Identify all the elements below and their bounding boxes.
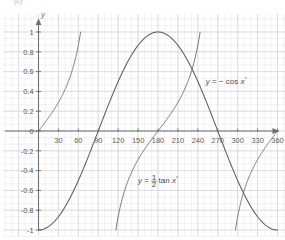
y-tick-label: -0.2: [21, 147, 34, 156]
annotation-neg-cos: y = − cos x°: [205, 76, 247, 86]
y-tick-label: 0.8: [23, 48, 33, 57]
x-tick-label: 300: [231, 136, 243, 145]
x-tick-label: 30: [54, 136, 62, 145]
curve-half-tan-branch-1: [39, 32, 81, 131]
y-tick-label: -0.6: [21, 186, 34, 195]
y-tick-label: -0.8: [21, 206, 34, 215]
y-axis-arrow: [36, 19, 42, 26]
y-tick-label: -0.4: [21, 166, 34, 175]
x-tick-label: 240: [192, 136, 204, 145]
x-tick-label: 60: [74, 136, 82, 145]
svg-text:y =: y =: [137, 176, 149, 185]
x-tick-label: 120: [112, 136, 124, 145]
graph-plot: y30609012015018021024027030033036010.80.…: [0, 0, 285, 240]
x-tick-label: 210: [172, 136, 184, 145]
grid-minor: [3, 14, 285, 237]
figure-container: (c) y30609012015018021024027030033036010…: [0, 0, 285, 240]
y-tick-label: 0.2: [23, 107, 33, 116]
svg-text:2: 2: [152, 180, 157, 189]
y-tick-label: -1: [27, 226, 34, 235]
x-tick-label: 90: [94, 136, 102, 145]
annotation-half-tan: y =12 tan x°: [137, 173, 178, 189]
x-tick-label: 150: [132, 136, 144, 145]
y-tick-label: 1: [29, 28, 33, 37]
y-tick-label: 0.4: [23, 87, 33, 96]
x-tick-label: 330: [251, 136, 263, 145]
y-tick-label: 0: [29, 127, 33, 136]
y-tick-label: 0.6: [23, 67, 33, 76]
svg-text:tan x°: tan x°: [159, 175, 179, 185]
